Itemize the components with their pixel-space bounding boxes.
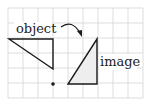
image-triangle (68, 39, 97, 84)
rotation-arrow-icon (61, 24, 82, 37)
rotation-diagram: object image (0, 0, 148, 105)
object-label: object (16, 21, 57, 36)
center-of-rotation-dot (51, 82, 55, 86)
object-triangle (9, 39, 53, 69)
image-label: image (100, 54, 141, 69)
